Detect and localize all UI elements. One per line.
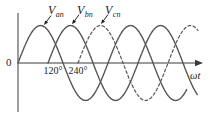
waveform-svg xyxy=(0,0,210,123)
series-label-vcn: Vcn xyxy=(105,4,120,16)
vbn-subscript: bn xyxy=(85,10,93,19)
origin-zero-label: 0 xyxy=(6,56,12,68)
x-tick-label-120: 120° xyxy=(39,65,67,76)
van-subscript: an xyxy=(56,10,64,19)
x-tick-label-240: 240° xyxy=(64,65,92,76)
van-symbol: V xyxy=(48,3,55,17)
series-label-van: Van xyxy=(48,4,64,16)
vcn-symbol: V xyxy=(105,3,112,17)
vcn-subscript: cn xyxy=(113,10,121,19)
x-axis-arrowhead-icon xyxy=(195,60,203,66)
x-axis-label-wt: ωt xyxy=(190,70,200,82)
figure-canvas: Van Vbn Vcn 0 120° 240° ωt xyxy=(0,0,210,123)
vbn-symbol: V xyxy=(77,3,84,17)
series-label-vbn: Vbn xyxy=(77,4,93,16)
